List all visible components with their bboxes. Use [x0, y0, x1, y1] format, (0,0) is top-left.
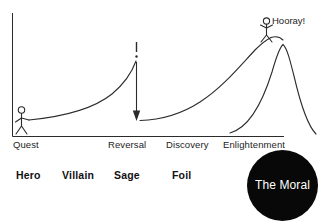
stage-label-reversal: Reversal	[108, 139, 146, 150]
tension-curve-act-one	[29, 61, 136, 120]
moral-badge-label: The Moral	[255, 178, 310, 192]
role-label-foil: Foil	[172, 169, 191, 181]
down-arrow-head-icon	[133, 111, 140, 122]
stick-figure-icon-hooray	[261, 18, 273, 42]
hooray-annotation: Hooray!	[272, 15, 305, 26]
role-label-hero: Hero	[16, 169, 41, 181]
role-label-villain: Villain	[62, 169, 94, 181]
exclamation-dot-icon	[135, 55, 137, 57]
moral-badge: The Moral	[247, 150, 318, 221]
stage-label-enlightenment: Enlightenment	[223, 139, 285, 150]
resolution-peak-curve	[230, 45, 316, 135]
tension-curve-act-two	[140, 38, 271, 121]
tension-curve-crest	[271, 37, 283, 40]
role-label-sage: Sage	[114, 169, 140, 181]
stick-figure-icon-quest	[16, 107, 30, 134]
stage-label-quest: Quest	[13, 139, 39, 150]
story-arc-diagram: Hooray! Quest Reversal Discovery Enlight…	[0, 0, 324, 222]
stage-label-discovery: Discovery	[166, 139, 209, 150]
